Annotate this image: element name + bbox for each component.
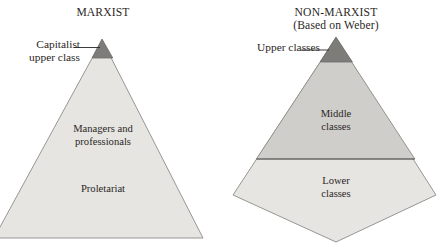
nonmarxist-callout-line1: Upper classes: [257, 41, 320, 53]
marxist-layer-label-managers: Managers and professionals: [48, 123, 158, 149]
lower-classes-label-line2: classes: [288, 188, 384, 201]
nonmarxist-layer-label-middle: Middle classes: [288, 108, 384, 134]
marxist-apex-cap-shape: [92, 39, 113, 58]
nonmarxist-title-line1: NON-MARXIST: [295, 6, 378, 19]
marxist-title-text: MARXIST: [76, 6, 129, 19]
middle-classes-label-line2: classes: [288, 121, 384, 134]
proletariat-label-line1: Proletariat: [81, 183, 125, 194]
marxist-callout-label: Capitalist upper class: [0, 38, 80, 65]
nonmarxist-layer-label-lower: Lower classes: [288, 175, 384, 201]
nonmarxist-pyramid: [233, 37, 436, 242]
nonmarxist-callout-label: Upper classes: [228, 41, 320, 54]
marxist-callout-line2: upper class: [0, 51, 80, 64]
marxist-layer-label-proletariat: Proletariat: [50, 183, 156, 196]
marxist-title: MARXIST: [53, 6, 153, 19]
nonmarxist-title: NON-MARXIST (Based on Weber): [262, 6, 410, 33]
nonmarxist-title-line2: (Based on Weber): [262, 19, 410, 32]
middle-classes-label-line1: Middle: [321, 108, 352, 119]
class-structure-diagram: MARXIST NON-MARXIST (Based on Weber) Cap…: [0, 0, 447, 245]
managers-label-line1: Managers and: [73, 123, 133, 134]
marxist-callout-line1: Capitalist: [36, 38, 80, 50]
nonmarxist-apex-cap-shape: [320, 37, 352, 62]
managers-label-line2: professionals: [48, 136, 158, 149]
lower-classes-label-line1: Lower: [322, 175, 350, 186]
